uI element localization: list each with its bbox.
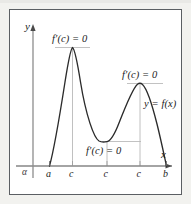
y-axis-arrow bbox=[30, 24, 35, 31]
plot-frame: f′(c) = 0 f′(c) = 0 f′(c) = 0 y = f(x) y… bbox=[9, 9, 182, 195]
label-curve-equation: y = f(x) bbox=[144, 99, 176, 110]
label-critical-point-valley: f′(c) = 0 bbox=[86, 146, 121, 157]
y-axis-label: y bbox=[25, 21, 30, 32]
top-divider bbox=[0, 0, 191, 3]
x-tick-label-a: a bbox=[46, 169, 51, 179]
x-tick-label-c3: c bbox=[137, 169, 141, 179]
label-critical-point-peak-left: f′(c) = 0 bbox=[52, 34, 87, 45]
x-tick-label-c2: c bbox=[104, 169, 108, 179]
x-tick-label-c1: c bbox=[69, 169, 73, 179]
figure-root: f′(c) = 0 f′(c) = 0 f′(c) = 0 y = f(x) y… bbox=[0, 0, 191, 204]
origin-label: α bbox=[22, 168, 27, 178]
x-axis-label: x bbox=[161, 149, 166, 160]
x-tick-label-b: b bbox=[163, 169, 168, 179]
label-critical-point-peak-right: f′(c) = 0 bbox=[122, 70, 157, 81]
